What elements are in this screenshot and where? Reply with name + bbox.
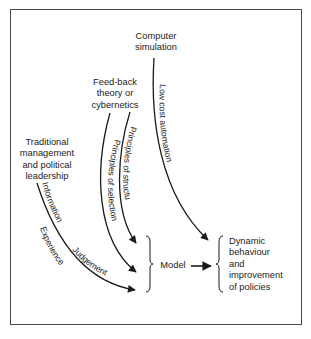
node-text-line: behaviour: [229, 247, 301, 258]
node-text-line: management: [14, 148, 80, 159]
node-text-line: and: [229, 259, 301, 270]
node-traditional-management: Traditional management and political lea…: [14, 137, 80, 183]
node-model: Model: [157, 260, 189, 271]
outcome-brace-icon: [216, 236, 223, 292]
node-text-line: of policies: [229, 282, 301, 293]
node-text-line: leadership: [14, 171, 80, 182]
node-computer-simulation: Computer simulation: [126, 31, 186, 54]
label-principles-of-selection: Principles of selection: [106, 138, 123, 222]
label-experience: Experience: [38, 225, 67, 267]
node-text-line: and political: [14, 160, 80, 171]
node-text-line: Computer: [126, 31, 186, 42]
node-text-line: improvement: [229, 270, 301, 281]
model-brace-icon: [146, 236, 153, 292]
node-text-line: Traditional: [14, 137, 80, 148]
model-label: Model: [157, 260, 189, 271]
node-text-line: Dynamic: [229, 236, 301, 247]
node-text-line: simulation: [126, 42, 186, 53]
node-text-line: cybernetics: [84, 100, 146, 111]
node-feedback-theory: Feed-back theory or cybernetics: [84, 77, 146, 111]
label-judgement: Judgement: [71, 245, 110, 278]
node-outcome: Dynamic behaviour and improvement of pol…: [229, 236, 301, 293]
node-text-line: theory or: [84, 88, 146, 99]
node-text-line: Feed-back: [84, 77, 146, 88]
